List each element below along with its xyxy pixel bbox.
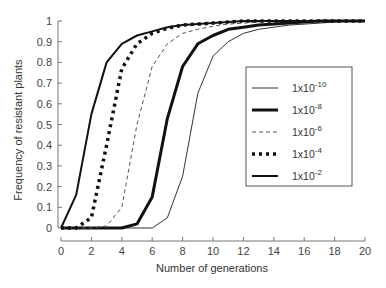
y-tick-label: 0.2: [37, 181, 52, 193]
x-tick-label: 6: [149, 245, 155, 257]
y-tick-label: 0.9: [37, 36, 52, 48]
y-tick-label: 0.5: [37, 119, 52, 131]
x-tick-label: 12: [237, 245, 249, 257]
x-tick-label: 14: [268, 245, 280, 257]
x-tick-label: 10: [207, 245, 219, 257]
x-tick-label: 8: [180, 245, 186, 257]
y-tick-label: 0: [46, 222, 52, 234]
y-tick-label: 0.8: [37, 56, 52, 68]
y-tick-label: 0.3: [37, 160, 52, 172]
y-tick-label: 0.1: [37, 201, 52, 213]
x-tick-label: 16: [298, 245, 310, 257]
y-tick-label: 1: [46, 15, 52, 27]
x-tick-label: 20: [359, 245, 371, 257]
y-tick-label: 0.6: [37, 98, 52, 110]
resistance-frequency-chart: 00.10.20.30.40.50.60.70.80.91 0246810121…: [0, 0, 386, 288]
x-tick-label: 18: [328, 245, 340, 257]
x-tick-label: 2: [88, 245, 94, 257]
x-tick-label: 4: [119, 245, 125, 257]
y-axis-title: Frequency of resistant plants: [12, 59, 24, 201]
x-tick-label: 0: [58, 245, 64, 257]
x-axis: 02468101214161820: [58, 237, 371, 257]
y-tick-label: 0.7: [37, 77, 52, 89]
y-axis: 00.10.20.30.40.50.60.70.80.91: [37, 15, 62, 234]
x-axis-title: Number of generations: [156, 262, 268, 274]
y-tick-label: 0.4: [37, 139, 52, 151]
legend: 1x10-101x10-81x10-61x10-41x10-2: [246, 67, 352, 186]
